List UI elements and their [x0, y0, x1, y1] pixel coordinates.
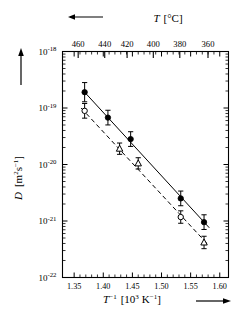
temperature-tick-label: 400 — [147, 39, 160, 49]
diffusion-axis-title: D[m2s−1] — [12, 156, 24, 201]
figure-arrhenius-plot: 1.351.401.451.501.551.604604404204003803… — [0, 0, 243, 318]
y-axis-title: D[m2s−1] — [12, 156, 24, 201]
data-point — [82, 103, 87, 118]
marker-filled-circle — [105, 115, 110, 120]
marker-open-triangle — [135, 160, 141, 166]
secondary-axis-labels: 460440420400380360 — [72, 39, 215, 58]
x-tick-labels: 1.351.401.451.501.551.60 — [67, 282, 227, 291]
marker-open-circle — [82, 108, 87, 113]
x-axis-arrow-head — [223, 298, 231, 304]
temperature-tick-label: 420 — [121, 39, 134, 49]
plot-canvas: 1.351.401.451.501.551.604604404204003803… — [0, 0, 243, 318]
top-axis-arrow-head — [68, 14, 75, 20]
y-axis-arrow-head — [18, 48, 24, 56]
marker-filled-circle — [128, 136, 133, 141]
data-point — [135, 158, 141, 169]
inverse-temperature-axis-title: T−1[103K−1] — [103, 293, 161, 305]
temperature-tick-label: 380 — [173, 39, 186, 49]
x-tick-label: 1.60 — [213, 282, 227, 291]
data-point — [178, 191, 183, 206]
x-axis-title: T−1[103K−1] — [103, 293, 161, 305]
x-tick-label: 1.45 — [125, 282, 139, 291]
y-tick-label: 10-18 — [38, 45, 57, 57]
marker-open-triangle — [201, 239, 207, 245]
data-point — [201, 236, 207, 248]
x-tick-label: 1.35 — [67, 282, 81, 291]
y-tick-label: 10-22 — [38, 271, 57, 283]
y-tick-label: 10-21 — [38, 215, 56, 227]
data-point — [201, 215, 206, 230]
y-tick-label: 10-20 — [38, 158, 57, 170]
y-tick-label: 10-19 — [38, 102, 57, 114]
data-point — [105, 110, 110, 125]
marker-open-circle — [178, 214, 183, 219]
marker-filled-circle — [201, 219, 206, 224]
x-tick-label: 1.40 — [96, 282, 110, 291]
temperature-tick-label: 460 — [72, 39, 85, 49]
top-axis-title: T[°C] — [153, 12, 182, 24]
dashed-fit — [81, 108, 208, 245]
temperature-axis-title: T[°C] — [153, 12, 182, 24]
series-filled-circles — [82, 83, 207, 230]
x-tick-label: 1.55 — [183, 282, 197, 291]
solid-fit — [85, 92, 210, 228]
axis-ticks — [74, 52, 220, 278]
marker-open-triangle — [116, 145, 122, 151]
marker-filled-circle — [82, 89, 87, 94]
temperature-tick-label: 440 — [98, 39, 111, 49]
x-tick-label: 1.50 — [154, 282, 168, 291]
fit-lines — [81, 92, 209, 245]
data-point — [82, 83, 87, 102]
marker-filled-circle — [178, 196, 183, 201]
data-point — [116, 143, 122, 154]
temperature-tick-label: 360 — [202, 39, 215, 49]
